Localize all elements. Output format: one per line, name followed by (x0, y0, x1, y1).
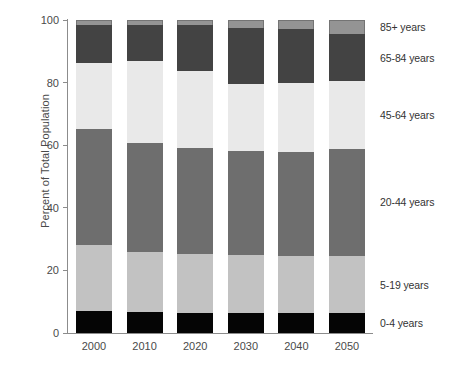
bar-segment[interactable] (177, 71, 213, 148)
bar-segment[interactable] (228, 84, 264, 151)
bar-segment[interactable] (76, 129, 112, 244)
bar-segment[interactable] (278, 29, 314, 83)
bar-segment[interactable] (278, 256, 314, 313)
x-axis-tick-labels: 200020102020203020402050 (68, 340, 373, 360)
bar-segment[interactable] (76, 25, 112, 63)
bar-segment[interactable] (329, 81, 365, 149)
bar-segment[interactable] (228, 313, 264, 333)
legend-item: 45-64 years (380, 109, 434, 121)
bar-segment[interactable] (177, 148, 213, 254)
bar-segment[interactable] (228, 151, 264, 255)
legend-item: 20-44 years (380, 196, 434, 208)
y-axis-tick-label: 100 (41, 14, 59, 26)
x-axis-tick-label: 2010 (127, 340, 163, 360)
bar-segment[interactable] (228, 28, 264, 84)
bar-column[interactable] (329, 20, 365, 333)
bar-segment[interactable] (329, 313, 365, 333)
legend-item: 65-84 years (380, 52, 434, 64)
bar-column[interactable] (76, 20, 112, 333)
bar-segment[interactable] (127, 25, 163, 61)
legend-item: 5-19 years (380, 279, 429, 291)
bar-segment[interactable] (76, 311, 112, 333)
bar-column[interactable] (177, 20, 213, 333)
bar-column[interactable] (278, 20, 314, 333)
y-axis-tick-label: 40 (47, 202, 59, 214)
bar-segment[interactable] (278, 83, 314, 152)
legend-item: 0-4 years (380, 317, 423, 329)
x-axis-tick-label: 2030 (228, 340, 264, 360)
bar-segment[interactable] (177, 25, 213, 70)
bar-segment[interactable] (76, 245, 112, 312)
bar-segment[interactable] (177, 313, 213, 333)
x-axis-tick-label: 2040 (278, 340, 314, 360)
bar-segment[interactable] (127, 61, 163, 143)
bar-segment[interactable] (278, 20, 314, 29)
bar-segment[interactable] (127, 252, 163, 312)
bar-segment[interactable] (329, 149, 365, 256)
legend-item: 85+ years (380, 21, 426, 33)
bar-segment[interactable] (127, 143, 163, 252)
bar-segment[interactable] (329, 20, 365, 34)
y-axis-tick: 100 (41, 14, 68, 26)
x-axis-tick-label: 2000 (76, 340, 112, 360)
bar-group (68, 20, 373, 333)
bar-segment[interactable] (278, 313, 314, 333)
bar-segment[interactable] (228, 255, 264, 313)
bar-segment[interactable] (177, 254, 213, 313)
bar-segment[interactable] (329, 34, 365, 81)
y-axis-tick: 80 (47, 77, 68, 89)
bar-segment[interactable] (76, 63, 112, 129)
y-axis-tick: 0 (53, 327, 68, 339)
x-axis-tick-label: 2020 (177, 340, 213, 360)
y-axis-tick: 20 (47, 264, 68, 276)
y-axis-tick: 60 (47, 139, 68, 151)
chart-legend: 85+ years65-84 years45-64 years20-44 yea… (380, 20, 466, 333)
bar-segment[interactable] (228, 20, 264, 28)
bar-segment[interactable] (329, 256, 365, 313)
bar-column[interactable] (228, 20, 264, 333)
bar-segment[interactable] (278, 152, 314, 256)
x-axis-tick-label: 2050 (329, 340, 365, 360)
y-axis-tick-label: 0 (53, 327, 59, 339)
y-axis-tick: 40 (47, 202, 68, 214)
bar-column[interactable] (127, 20, 163, 333)
plot-area: 020406080100 (68, 20, 373, 333)
y-axis-tick-label: 60 (47, 139, 59, 151)
x-axis-line (67, 333, 373, 334)
stacked-bar-chart: Percent of Total Population 020406080100… (0, 0, 466, 367)
y-axis-tick-label: 80 (47, 77, 59, 89)
y-axis-tick-label: 20 (47, 264, 59, 276)
bar-segment[interactable] (127, 312, 163, 333)
